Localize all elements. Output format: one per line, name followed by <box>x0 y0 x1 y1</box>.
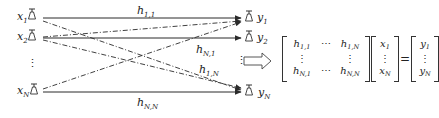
x-vector-cell-0: x1 <box>378 38 392 53</box>
channel-label-h1N: h1,N <box>199 64 219 78</box>
matrix-cell-0-0: h1,1 <box>289 38 315 53</box>
hollow-arrow-icon <box>244 53 271 69</box>
antenna-icon-xN <box>31 84 38 94</box>
rx-label-yN: yN <box>258 87 270 101</box>
matrix-cell-2-1: ⋯ <box>315 65 337 80</box>
tx-ellipsis: ⋮ <box>27 58 38 69</box>
matrix-equation: h1,1⋯h1,N⋮⋮hN,1⋯hN,N x1⋮xN = y1⋮yN <box>282 36 439 82</box>
matrix-cell-1-1 <box>315 53 337 65</box>
antenna-icon-x1 <box>29 9 36 19</box>
link-x2-y1 <box>43 21 241 37</box>
matrix-cell-2-2: hN,N <box>337 65 363 80</box>
y-vector-cell-0: y1 <box>418 38 432 53</box>
antenna-icon-y2 <box>246 31 253 41</box>
y-vector-cell-2: yN <box>418 65 432 80</box>
rx-ellipsis: ⋮ <box>236 55 247 66</box>
matrix-cell-1-2: ⋮ <box>337 53 363 65</box>
tx-vector: x1⋮xN <box>371 36 399 82</box>
matrix-cell-2-0: hN,1 <box>289 65 315 80</box>
antenna-icon-y1 <box>246 11 253 21</box>
matrix-cell-0-1: ⋯ <box>315 38 337 53</box>
channel-matrix: h1,1⋯h1,N⋮⋮hN,1⋯hN,N <box>282 36 370 82</box>
x-vector-cell-1: ⋮ <box>378 53 392 65</box>
rx-vector: y1⋮yN <box>411 36 439 82</box>
antenna-icon-yN <box>246 85 253 95</box>
rx-label-y1: y1 <box>257 12 268 26</box>
equals-sign: = <box>400 52 410 66</box>
y-vector-cell-1: ⋮ <box>418 53 432 65</box>
matrix-cell-0-2: h1,N <box>337 38 363 53</box>
matrix-cell-1-0: ⋮ <box>289 53 315 65</box>
tx-label-x1: x1 <box>17 11 28 25</box>
tx-label-xN: xN <box>17 85 29 99</box>
x-vector-cell-2: xN <box>378 65 392 80</box>
channel-label-hN1: hN,1 <box>196 44 215 58</box>
channel-label-hNN: hN,N <box>137 97 158 111</box>
rx-label-y2: y2 <box>257 32 268 46</box>
tx-label-x2: x2 <box>17 31 28 45</box>
channel-label-h11: h1,1 <box>137 5 155 19</box>
antenna-icon-x2 <box>29 30 36 40</box>
